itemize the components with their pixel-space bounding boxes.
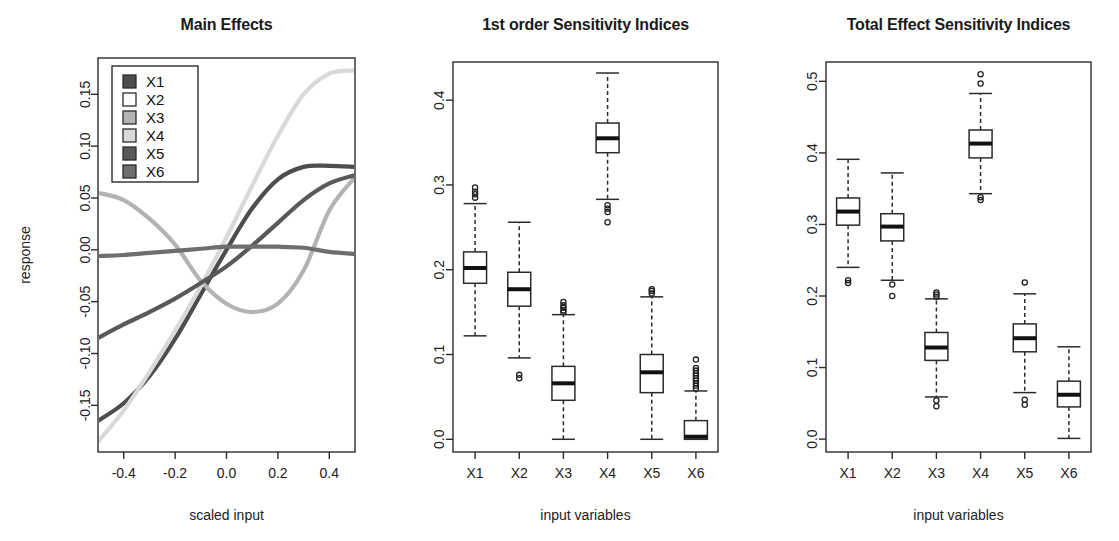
y-tick-label: 0.00 xyxy=(77,236,93,263)
boxplot-x2 xyxy=(881,173,904,299)
boxplot-x6 xyxy=(684,357,707,439)
panel-title: Main Effects xyxy=(181,16,273,33)
y-tick-label: 0.2 xyxy=(804,286,820,306)
x-tick-label: X5 xyxy=(1016,465,1033,481)
outlier xyxy=(934,404,939,409)
legend-swatch-x3 xyxy=(123,111,136,124)
x-tick-label: X4 xyxy=(599,465,616,481)
y-axis-label: response xyxy=(17,226,33,284)
curve-x5 xyxy=(98,175,355,338)
x-tick-label: 0.0 xyxy=(217,465,237,481)
panel-total-effect: Total Effect Sensitivity Indices0.00.10.… xyxy=(746,0,1119,541)
svg-text:0.05: 0.05 xyxy=(77,184,93,211)
x-tick-label: X1 xyxy=(467,465,484,481)
legend-label-x6: X6 xyxy=(146,163,164,180)
x-axis-label: input variables xyxy=(913,507,1003,523)
outlier xyxy=(934,398,939,403)
y-tick-label: 0.15 xyxy=(77,80,93,107)
x-tick-label: X1 xyxy=(840,465,857,481)
y-tick-label: 0.2 xyxy=(431,260,447,280)
y-tick-label: -0.10 xyxy=(77,337,93,369)
main-effects-chart: Main Effects-0.15-0.10-0.050.000.050.100… xyxy=(0,0,373,541)
outlier xyxy=(561,299,566,304)
y-tick-label: 0.4 xyxy=(431,90,447,110)
outlier xyxy=(890,293,895,298)
boxplot-x3 xyxy=(552,299,575,439)
svg-text:0.00: 0.00 xyxy=(77,236,93,263)
y-tick-label: 0.3 xyxy=(431,175,447,195)
boxplot-x1 xyxy=(464,185,487,336)
plot-frame xyxy=(826,62,1091,452)
x-tick-label: 0.2 xyxy=(268,465,288,481)
sensitivity-analysis-figure: Main Effects-0.15-0.10-0.050.000.050.100… xyxy=(0,0,1119,541)
y-tick-label: 0.10 xyxy=(77,132,93,159)
svg-text:0.10: 0.10 xyxy=(77,132,93,159)
legend-label-x1: X1 xyxy=(146,73,164,90)
x-tick-label: X3 xyxy=(928,465,945,481)
y-tick-label: -0.15 xyxy=(77,389,93,421)
x-tick-label: -0.4 xyxy=(112,465,136,481)
y-tick-label: 0.0 xyxy=(431,429,447,449)
x-tick-label: X6 xyxy=(687,465,704,481)
boxplot-x5 xyxy=(1013,280,1036,408)
boxplot-x4 xyxy=(969,72,992,203)
outlier xyxy=(605,220,610,225)
x-axis-label: scaled input xyxy=(189,507,264,523)
legend-swatch-x1 xyxy=(123,75,136,88)
legend-label-x3: X3 xyxy=(146,109,164,126)
total-effect-boxplot-chart: Total Effect Sensitivity Indices0.00.10.… xyxy=(746,0,1119,541)
x-axis-label: input variables xyxy=(540,507,630,523)
legend-label-x4: X4 xyxy=(146,127,164,144)
boxplot-x3 xyxy=(925,290,948,409)
panel-first-order: 1st order Sensitivity Indices0.00.10.20.… xyxy=(373,0,746,541)
y-tick-label: 0.1 xyxy=(804,358,820,378)
outlier xyxy=(978,81,983,86)
svg-text:-0.05: -0.05 xyxy=(77,285,93,317)
boxplot-x5 xyxy=(640,287,663,440)
x-tick-label: 0.4 xyxy=(320,465,340,481)
legend-swatch-x5 xyxy=(123,147,136,160)
panel-main-effects: Main Effects-0.15-0.10-0.050.000.050.100… xyxy=(0,0,373,541)
x-tick-label: X5 xyxy=(643,465,660,481)
boxplot-x2 xyxy=(508,222,531,381)
panel-title: Total Effect Sensitivity Indices xyxy=(847,16,1071,33)
legend-label-x2: X2 xyxy=(146,91,164,108)
svg-text:-0.15: -0.15 xyxy=(77,389,93,421)
panel-title: 1st order Sensitivity Indices xyxy=(482,16,689,33)
y-tick-label: 0.0 xyxy=(804,429,820,449)
legend-label-x5: X5 xyxy=(146,145,164,162)
y-tick-label: 0.1 xyxy=(431,345,447,365)
plot-frame xyxy=(453,62,718,452)
y-tick-label: 0.3 xyxy=(804,214,820,234)
x-tick-label: X3 xyxy=(555,465,572,481)
x-tick-label: X4 xyxy=(972,465,989,481)
y-tick-label: 0.05 xyxy=(77,184,93,211)
curve-x1 xyxy=(98,166,355,421)
x-tick-label: X2 xyxy=(511,465,528,481)
first-order-boxplot-chart: 1st order Sensitivity Indices0.00.10.20.… xyxy=(373,0,746,541)
outlier xyxy=(1022,280,1027,285)
x-tick-label: X6 xyxy=(1060,465,1077,481)
boxplot-x1 xyxy=(837,159,860,285)
outlier xyxy=(605,209,610,214)
outlier xyxy=(978,72,983,77)
x-tick-label: -0.2 xyxy=(163,465,187,481)
boxplot-x6 xyxy=(1057,347,1080,439)
y-tick-label: 0.4 xyxy=(804,143,820,163)
y-tick-label: -0.05 xyxy=(77,285,93,317)
outlier xyxy=(693,357,698,362)
legend-swatch-x4 xyxy=(123,129,136,142)
legend-swatch-x2 xyxy=(123,93,136,106)
boxplot-x4 xyxy=(596,73,619,225)
outlier xyxy=(890,282,895,287)
x-tick-label: X2 xyxy=(884,465,901,481)
legend-swatch-x6 xyxy=(123,165,136,178)
svg-text:0.15: 0.15 xyxy=(77,80,93,107)
y-tick-label: 0.5 xyxy=(804,71,820,91)
outlier xyxy=(517,376,522,381)
svg-text:-0.10: -0.10 xyxy=(77,337,93,369)
